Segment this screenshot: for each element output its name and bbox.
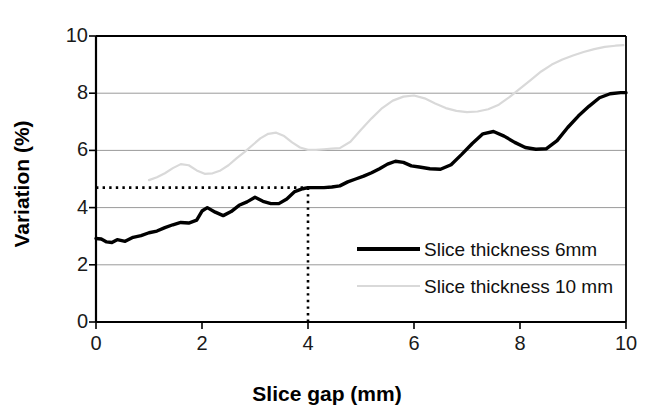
- gridlines: [96, 93, 626, 265]
- chart-figure: Variation (%) 10 8 6 4 2 0 0 2 4 6 8 10 …: [0, 0, 654, 420]
- plot-frame: [96, 36, 626, 322]
- legend-markers: [357, 249, 420, 286]
- series-line-slice-thickness-10-mm: [149, 45, 623, 180]
- data-series-layer: [96, 45, 626, 242]
- plot-canvas: [0, 0, 654, 420]
